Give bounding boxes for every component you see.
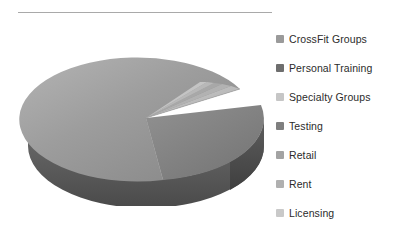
pie-chart-graphic [18,36,274,206]
legend-item-licensing[interactable]: Licensing [276,198,408,227]
legend-item-specialty-groups[interactable]: Specialty Groups [276,82,408,111]
legend-item-label: Personal Training [289,62,372,74]
legend-item-label: Licensing [289,207,334,219]
legend-swatch-icon [276,151,284,159]
legend-swatch-icon [276,93,284,101]
legend-swatch-icon [276,35,284,43]
legend-item-label: Rent [289,178,312,190]
legend-item-label: Testing [289,120,323,132]
legend-swatch-icon [276,180,284,188]
pie-chart-figure: CrossFit Groups Personal Training Specia… [0,0,410,236]
legend-item-personal-training[interactable]: Personal Training [276,53,408,82]
legend-item-crossfit-groups[interactable]: CrossFit Groups [276,24,408,53]
legend-item-rent[interactable]: Rent [276,169,408,198]
legend-swatch-icon [276,64,284,72]
legend-item-retail[interactable]: Retail [276,140,408,169]
legend-item-label: Specialty Groups [289,91,371,103]
legend-item-testing[interactable]: Testing [276,111,408,140]
legend-swatch-icon [276,122,284,130]
legend-item-label: Retail [289,149,316,161]
top-divider-rule [18,12,272,13]
legend-swatch-icon [276,209,284,217]
chart-legend: CrossFit Groups Personal Training Specia… [276,24,408,224]
legend-item-label: CrossFit Groups [289,33,367,45]
